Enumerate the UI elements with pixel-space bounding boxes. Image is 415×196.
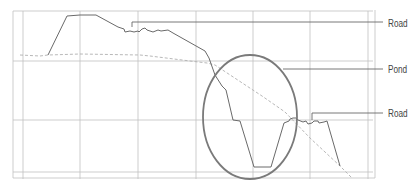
terrain-profile-line: [48, 15, 340, 167]
pond-highlight-ellipse: [203, 55, 297, 179]
label-pond: Pond: [388, 65, 407, 75]
label-road-upper: Road: [388, 19, 408, 29]
original-grade-dashed-line: [20, 54, 352, 178]
label-leader-lines: [132, 22, 383, 120]
label-road-lower: Road: [388, 109, 408, 119]
grid-lines: [13, 10, 375, 179]
elevation-profile-diagram: [0, 0, 415, 196]
